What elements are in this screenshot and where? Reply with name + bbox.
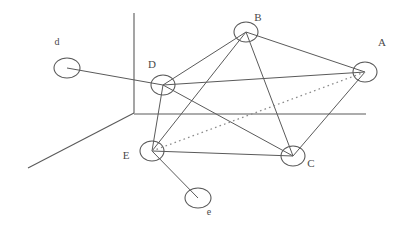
node-A[interactable] <box>353 62 377 82</box>
node-label-E: E <box>123 149 130 161</box>
depth-axis <box>28 113 134 168</box>
node-label-e: e <box>207 206 212 217</box>
node-label-A: A <box>378 36 386 48</box>
node-label-d: d <box>55 36 60 47</box>
graph-canvas: ABCDEde <box>0 0 406 226</box>
node-d[interactable] <box>54 58 80 78</box>
node-label-D: D <box>148 58 156 70</box>
node-e[interactable] <box>185 188 211 208</box>
edge-D-C <box>163 85 293 156</box>
edge-B-A <box>246 32 365 72</box>
edge-d-D <box>67 68 163 85</box>
edge-B-C <box>246 32 293 156</box>
node-D[interactable] <box>151 75 175 95</box>
edge-D-B <box>163 32 246 85</box>
node-label-B: B <box>254 11 261 23</box>
node-B[interactable] <box>234 22 258 42</box>
node-label-C: C <box>307 157 314 169</box>
graph-diagram-figure: ABCDEde <box>0 0 406 226</box>
node-E[interactable] <box>140 141 164 161</box>
edges-group <box>67 32 365 198</box>
edge-E-C <box>152 151 293 156</box>
node-C[interactable] <box>281 146 305 166</box>
